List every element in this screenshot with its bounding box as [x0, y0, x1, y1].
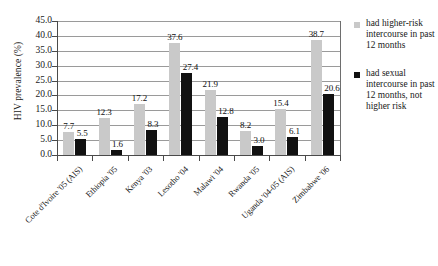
plot-area: 7.75.512.31.617.28.337.627.421.912.88.23…	[57, 21, 340, 155]
bar-series-not-higher-risk	[181, 73, 192, 155]
y-axis-tick-label: 15.0	[6, 104, 52, 114]
bar-series-higher-risk	[134, 104, 145, 155]
bar-series-not-higher-risk	[323, 94, 334, 155]
bar-series-higher-risk	[63, 132, 74, 155]
y-axis-tick-label: 30.0	[6, 60, 52, 70]
bar-series-not-higher-risk	[252, 146, 263, 155]
hiv-prevalence-bar-chart: HIV prevalence (%) 0.05.010.015.020.025.…	[0, 0, 438, 266]
bar-value-label: 20.6	[324, 83, 346, 93]
y-axis-tick: 15.0	[0, 110, 52, 111]
bar-series-higher-risk	[205, 90, 216, 155]
y-axis-tick: 20.0	[0, 95, 52, 96]
y-axis-tick: 0.0	[0, 155, 52, 156]
bar-series-higher-risk	[240, 131, 251, 155]
legend-entry-higher-risk: had higher-risk intercourse in past 12 m…	[354, 18, 438, 52]
bar-value-label: 3.0	[254, 135, 276, 145]
y-axis-tick: 10.0	[0, 125, 52, 126]
legend-swatch-icon-series-b	[354, 72, 360, 78]
x-axis-tick-mark	[305, 156, 306, 161]
bar-value-label: 37.6	[164, 32, 186, 42]
bar-value-label: 8.2	[235, 120, 257, 130]
x-axis-tick-mark	[340, 156, 341, 161]
y-axis-tick: 5.0	[0, 140, 52, 141]
x-axis-tick-mark	[163, 156, 164, 161]
bar-value-label: 8.3	[147, 119, 169, 129]
bar-series-higher-risk	[275, 109, 286, 155]
bar-series-higher-risk	[169, 43, 180, 155]
bar-series-not-higher-risk	[217, 117, 228, 155]
y-axis-tick: 40.0	[0, 36, 52, 37]
bar-value-label: 17.2	[128, 93, 150, 103]
x-axis-tick-mark	[57, 156, 58, 161]
x-axis-tick-mark	[199, 156, 200, 161]
y-axis-tick-label: 10.0	[6, 119, 52, 129]
legend: had higher-risk intercourse in past 12 m…	[354, 18, 438, 128]
y-axis-tick-label: 35.0	[6, 45, 52, 55]
bar-value-label: 6.1	[289, 126, 311, 136]
y-axis-tick-label: 20.0	[6, 89, 52, 99]
y-axis-tick: 35.0	[0, 51, 52, 52]
bar-series-higher-risk	[99, 118, 110, 155]
y-axis-tick: 25.0	[0, 81, 52, 82]
y-axis-tick-label: 0.0	[6, 149, 52, 159]
bar-value-label: 21.9	[199, 79, 221, 89]
y-axis-tick: 45.0	[0, 21, 52, 22]
bar-series-higher-risk	[311, 40, 322, 155]
legend-label-series-a: had higher-risk intercourse in past 12 m…	[366, 18, 438, 52]
y-axis-tick-label: 45.0	[6, 15, 52, 25]
bar-series-not-higher-risk	[287, 137, 298, 155]
bar-value-label: 1.6	[112, 139, 134, 149]
y-axis-tick-label: 5.0	[6, 134, 52, 144]
legend-swatch-icon-series-a	[354, 22, 360, 28]
bar-series-not-higher-risk	[146, 130, 157, 155]
legend-entry-not-higher-risk: had sexual intercourse in past 12 months…	[354, 68, 438, 113]
y-axis-tick-label: 40.0	[6, 30, 52, 40]
bar-value-label: 38.7	[305, 29, 327, 39]
bar-value-label: 5.5	[77, 128, 99, 138]
y-axis-tick-label: 25.0	[6, 75, 52, 85]
bar-value-label: 12.3	[93, 107, 115, 117]
bar-series-not-higher-risk	[75, 139, 86, 155]
legend-label-series-b: had sexual intercourse in past 12 months…	[366, 68, 438, 113]
bar-series-not-higher-risk	[111, 150, 122, 155]
x-axis-tick-mark	[269, 156, 270, 161]
bar-value-label: 27.4	[183, 62, 205, 72]
bar-value-label: 15.4	[270, 98, 292, 108]
x-axis-tick-mark	[128, 156, 129, 161]
x-axis-tick-mark	[234, 156, 235, 161]
y-axis-tick: 30.0	[0, 66, 52, 67]
x-axis-tick-mark	[92, 156, 93, 161]
bar-value-label: 12.8	[218, 106, 240, 116]
